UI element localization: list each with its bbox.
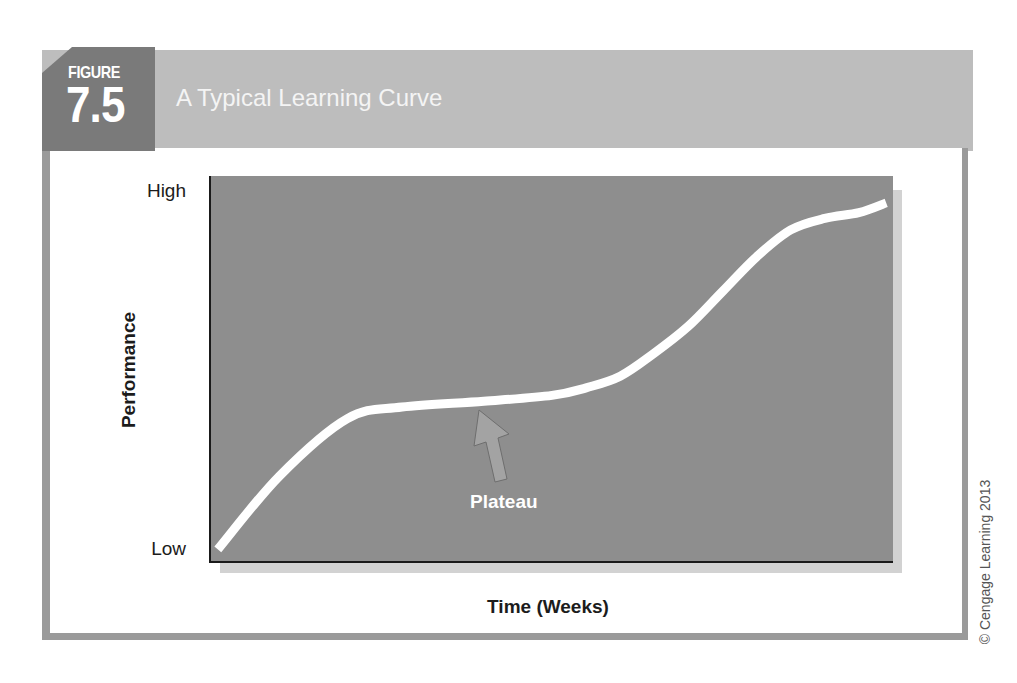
plateau-label: Plateau xyxy=(470,492,538,511)
x-axis-label: Time (Weeks) xyxy=(487,597,609,616)
y-axis-label: Performance xyxy=(119,312,138,428)
figure-number: 7.5 xyxy=(66,80,125,130)
chart-svg xyxy=(211,176,893,561)
y-tick-high: High xyxy=(106,181,186,200)
plateau-arrow-icon xyxy=(474,410,509,482)
copyright-credit: © Cengage Learning 2013 xyxy=(978,480,992,644)
learning-curve-line xyxy=(218,203,886,550)
y-tick-low: Low xyxy=(106,539,186,558)
figure-title: A Typical Learning Curve xyxy=(176,86,442,110)
plot-area xyxy=(209,176,893,563)
